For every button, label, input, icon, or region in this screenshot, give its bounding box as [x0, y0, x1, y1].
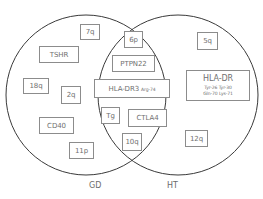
gene-label: 18q — [29, 82, 42, 90]
set-label-gd: GD — [89, 181, 101, 190]
gene-label: 6p — [129, 36, 138, 44]
gene-box-7q: 7q — [80, 24, 100, 40]
gene-sublabel: Gln-70 Lys-71 — [203, 92, 233, 97]
gene-box-tg: Tg — [101, 107, 120, 124]
gene-label: 7q — [86, 28, 95, 36]
gene-box-tshr: TSHR — [39, 46, 79, 63]
gene-label: 12q — [190, 135, 203, 143]
gene-box-12q: 12q — [185, 130, 208, 147]
gene-label: Tg — [106, 112, 115, 120]
gene-box-cd40: CD40 — [39, 117, 74, 134]
gene-label: 2q — [67, 91, 76, 99]
gene-box-18q: 18q — [23, 78, 49, 94]
gene-label: HLA-DR3 — [109, 85, 140, 93]
gene-sublabel: Tyr-26 Tyr-30 — [204, 86, 231, 91]
gene-label: CTLA4 — [137, 114, 159, 122]
gene-box-10q: 10q — [122, 133, 142, 151]
gene-label: PTPN22 — [120, 60, 146, 68]
gene-label: 11p — [75, 147, 88, 155]
gene-label: CD40 — [47, 122, 66, 130]
gene-label: 5q — [203, 37, 212, 45]
set-label-ht: HT — [167, 181, 178, 190]
gene-box-hla-dr3: HLA-DR3Arg-74 — [94, 79, 170, 98]
gene-box-ctla4: CTLA4 — [128, 109, 167, 127]
gene-box-2q: 2q — [61, 86, 81, 104]
gene-box-5q: 5q — [197, 32, 218, 50]
gene-label: 10q — [125, 138, 138, 146]
gene-sublabel: Arg-74 — [141, 87, 155, 92]
gene-box-ptpn22: PTPN22 — [112, 55, 155, 72]
gene-box-11p: 11p — [69, 142, 94, 159]
gene-label: TSHR — [50, 51, 68, 59]
gene-box-6p: 6p — [124, 31, 143, 48]
gene-label: HLA-DR — [203, 75, 233, 83]
gene-box-hla-dr: HLA-DR Tyr-26 Tyr-30 Gln-70 Lys-71 — [186, 70, 250, 101]
